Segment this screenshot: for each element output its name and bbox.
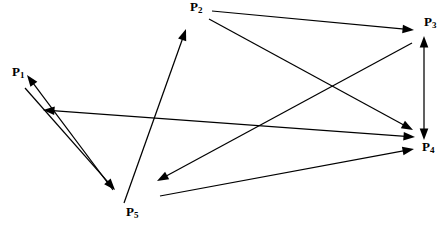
directed-graph-diagram: P1 P2 P3 P4 P5 bbox=[0, 0, 444, 231]
node-base-p2: P bbox=[190, 0, 198, 14]
node-base-p4: P bbox=[422, 139, 430, 154]
node-base-p1: P bbox=[12, 64, 20, 79]
arrowhead-p4-to-p3 bbox=[420, 36, 429, 48]
arrowhead-p3-to-p5 bbox=[157, 172, 169, 181]
node-sub-p5: 5 bbox=[134, 210, 139, 220]
node-base-p5: P bbox=[126, 204, 134, 219]
node-label-p3: P3 bbox=[424, 15, 436, 28]
node-base-p3: P bbox=[424, 14, 432, 29]
edge-p1-p4 bbox=[52, 111, 405, 137]
node-sub-p4: 4 bbox=[430, 145, 435, 155]
arrowhead-p2-to-p3 bbox=[402, 25, 414, 34]
node-sub-p1: 1 bbox=[20, 70, 25, 80]
edge-p1-p5 bbox=[25, 88, 109, 183]
arrowhead-p5-to-p2 bbox=[178, 29, 186, 41]
graph-canvas bbox=[0, 0, 444, 231]
node-label-p5: P5 bbox=[126, 205, 138, 218]
arrowhead-p2-to-p4 bbox=[401, 121, 413, 130]
node-label-p4: P4 bbox=[422, 140, 434, 153]
edge-p2-p4 bbox=[209, 19, 405, 125]
edge-p5-p4 bbox=[160, 151, 405, 196]
edge-p5-p2 bbox=[124, 38, 183, 203]
node-label-p1: P1 bbox=[12, 65, 24, 78]
arrowhead-p1-to-p4 bbox=[403, 132, 415, 141]
node-label-p2: P2 bbox=[190, 0, 202, 13]
arrowhead-p5-to-p1 bbox=[27, 75, 37, 87]
edge-p2-p3 bbox=[212, 11, 405, 29]
node-sub-p2: 2 bbox=[198, 5, 203, 15]
node-sub-p3: 3 bbox=[432, 20, 437, 30]
arrowhead-p5-to-p4 bbox=[402, 147, 414, 155]
